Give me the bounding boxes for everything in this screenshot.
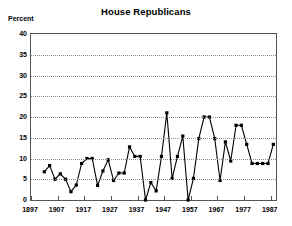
gridline-y-10 [31, 159, 276, 160]
x-tick-mark-1927 [111, 196, 112, 200]
data-point-1956 [187, 198, 190, 201]
data-point-1932 [123, 171, 126, 174]
data-point-1980 [250, 162, 253, 165]
x-tick-mark-1977 [244, 196, 245, 200]
data-point-1978 [245, 143, 248, 146]
gridline-y-5 [31, 179, 276, 180]
chart-title: House Republicans [0, 6, 292, 17]
data-point-1924 [101, 169, 104, 172]
data-point-1972 [229, 159, 232, 162]
x-tick-mark-1967 [217, 196, 218, 200]
data-point-1914 [75, 183, 78, 186]
plot-area [30, 33, 277, 201]
x-tick-mark-1987 [271, 196, 272, 200]
data-point-1902 [43, 170, 46, 173]
data-point-1930 [117, 171, 120, 174]
gridline-y-25 [31, 96, 276, 97]
data-point-1942 [149, 181, 152, 184]
data-point-1976 [240, 124, 243, 127]
gridline-y-20 [31, 117, 276, 118]
y-tick-0: 0 [3, 196, 27, 203]
y-tick-5: 5 [3, 175, 27, 182]
data-point-1982 [256, 162, 259, 165]
data-point-1944 [155, 189, 158, 192]
y-axis-label: Percent [8, 15, 34, 23]
data-point-1916 [80, 162, 83, 165]
gridline-y-15 [31, 138, 276, 139]
data-point-1988 [272, 143, 275, 146]
data-point-1984 [261, 162, 264, 165]
x-tick-1987: 1987 [253, 206, 287, 214]
data-point-1970 [224, 140, 227, 143]
y-tick-25: 25 [3, 92, 27, 99]
data-point-1912 [69, 190, 72, 193]
data-point-1940 [144, 198, 147, 201]
y-tick-20: 20 [3, 113, 27, 120]
data-point-1986 [266, 162, 269, 165]
y-tick-15: 15 [3, 133, 27, 140]
data-point-1922 [96, 184, 99, 187]
y-tick-40: 40 [3, 30, 27, 37]
chart-figure: House Republicans Percent 05101520253035… [0, 0, 292, 226]
x-axis-tick-labels: 1897190719171927193719471957196719771987 [30, 206, 277, 218]
x-tick-mark-1917 [84, 196, 85, 200]
gridline-y-35 [31, 55, 276, 56]
x-tick-mark-1937 [138, 196, 139, 200]
x-tick-mark-1957 [191, 196, 192, 200]
x-tick-mark-1947 [164, 196, 165, 200]
y-axis-tick-labels: 0510152025303540 [0, 33, 27, 201]
data-point-1908 [59, 172, 62, 175]
x-tick-mark-1907 [58, 196, 59, 200]
data-point-1974 [234, 124, 237, 127]
data-point-1904 [48, 164, 51, 167]
series-path [44, 113, 273, 200]
data-point-1948 [165, 111, 168, 114]
data-point-1934 [128, 145, 131, 148]
y-tick-35: 35 [3, 50, 27, 57]
x-tick-mark-1897 [31, 196, 32, 200]
gridline-y-30 [31, 76, 276, 77]
y-tick-10: 10 [3, 154, 27, 161]
y-tick-30: 30 [3, 71, 27, 78]
